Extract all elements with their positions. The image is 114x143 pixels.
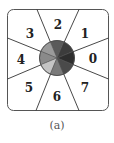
figure-caption: (a) [0, 119, 114, 132]
sector-label-3: 3 [26, 27, 34, 41]
sector-label-7: 7 [81, 81, 89, 95]
sector-label-5: 5 [25, 81, 33, 95]
sector-label-0: 0 [89, 52, 97, 66]
center-color-wheel [40, 41, 75, 76]
sector-label-6: 6 [53, 90, 61, 104]
sector-label-2: 2 [54, 18, 62, 32]
sector-label-4: 4 [17, 53, 25, 67]
sector-label-1: 1 [81, 27, 89, 41]
